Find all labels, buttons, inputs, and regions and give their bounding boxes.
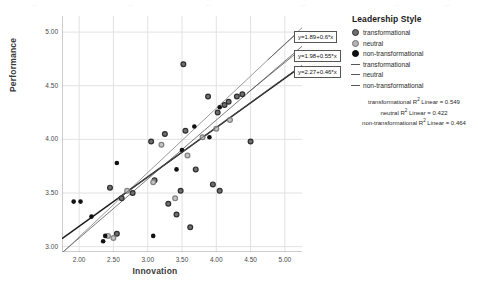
data-point-transformational (210, 182, 215, 187)
data-point-transformational (130, 191, 135, 196)
legend: Leadership Style transformationalneutral… (352, 14, 476, 91)
data-point-non-transformational (207, 135, 212, 140)
data-point-transformational (166, 201, 171, 206)
x-tick-label: 3.50 (167, 256, 197, 263)
y-tick-label: 3.50 (32, 189, 58, 196)
legend-line-item-neutral[interactable]: neutral (352, 70, 476, 80)
legend-line-label: non-transformational (363, 81, 423, 90)
ghost-text-fragment: ·· (394, 1, 400, 10)
r-squared-notes: transformational R2 Linear = 0.549neutra… (352, 96, 476, 128)
legend-line-icon (352, 61, 359, 68)
r-squared-note: neutral R2 Linear = 0.422 (352, 107, 476, 118)
legend-marker-icon (352, 29, 359, 36)
data-point-neutral (125, 188, 130, 193)
data-point-neutral (173, 196, 178, 201)
legend-item-non-transformational[interactable]: non-transformational (352, 49, 476, 59)
data-point-non-transformational (89, 214, 94, 219)
data-point-non-transformational (103, 234, 108, 239)
data-point-transformational (217, 188, 222, 193)
legend-item-label: transformational (363, 28, 410, 37)
data-point-non-transformational (217, 105, 222, 110)
r-squared-note: non-transformational R2 Linear = 0.464 (352, 117, 476, 128)
y-tick-label: 4.00 (32, 135, 58, 142)
data-point-transformational (240, 92, 245, 97)
x-tick-label: 2.00 (64, 256, 94, 263)
data-point-transformational (149, 139, 154, 144)
legend-line-item-non-transformational[interactable]: non-transformational (352, 81, 476, 91)
equation-callout-transformational[interactable]: y=1.89+0.6*x (294, 31, 337, 43)
x-axis-label: Innovation (0, 266, 310, 276)
legend-marker-group: transformationalneutralnon-transformatio… (352, 28, 476, 59)
y-tick-label: 4.50 (32, 82, 58, 89)
scatter-plot-figure: ············ Performance Innovation 3.00… (0, 0, 478, 285)
data-point-non-transformational (115, 161, 120, 166)
plot-area (62, 16, 302, 252)
data-point-transformational (119, 196, 124, 201)
data-point-non-transformational (151, 234, 156, 239)
data-point-neutral (200, 135, 205, 140)
data-point-non-transformational (174, 167, 179, 172)
data-point-transformational (178, 188, 183, 193)
ghost-text-fragment: ·· (444, 1, 450, 10)
data-point-non-transformational (101, 239, 106, 244)
x-tick-label: 2.50 (98, 256, 128, 263)
cropped-header-text: ············ (0, 0, 478, 14)
ghost-text-fragment: ·· (300, 1, 306, 10)
ghost-text-fragment: ·· (32, 1, 38, 10)
data-point-transformational (206, 94, 211, 99)
data-point-neutral (151, 180, 156, 185)
equation-callout-non-transformational[interactable]: y=2.27+0.46*x (294, 66, 341, 78)
legend-item-label: non-transformational (363, 49, 423, 58)
data-point-transformational (108, 185, 113, 190)
legend-marker-icon (352, 50, 359, 57)
x-tick-label: 4.00 (201, 256, 231, 263)
data-point-transformational (248, 139, 253, 144)
data-point-neutral (228, 118, 233, 123)
legend-title: Leadership Style (352, 14, 476, 24)
data-point-transformational (162, 132, 167, 137)
legend-line-icon (352, 71, 359, 78)
legend-marker-icon (352, 40, 359, 47)
data-point-non-transformational (71, 199, 76, 204)
legend-line-label: transformational (363, 60, 410, 69)
data-point-non-transformational (78, 199, 83, 204)
legend-line-item-transformational[interactable]: transformational (352, 60, 476, 70)
y-tick-label: 5.00 (32, 28, 58, 35)
data-point-non-transformational (180, 148, 185, 153)
y-axis-label: Performance (8, 38, 18, 92)
x-tick-label: 4.50 (236, 256, 266, 263)
data-point-neutral (111, 236, 116, 241)
data-point-neutral (214, 126, 219, 131)
data-point-transformational (174, 212, 179, 217)
x-tick-label: 3.00 (133, 256, 163, 263)
data-point-transformational (183, 128, 188, 133)
legend-item-label: neutral (363, 39, 383, 48)
data-point-transformational (215, 110, 220, 115)
y-tick-label: 3.00 (32, 243, 58, 250)
legend-line-group: transformationalneutralnon-transformatio… (352, 60, 476, 91)
data-point-non-transformational (192, 124, 197, 129)
data-point-transformational (226, 99, 231, 104)
legend-line-icon (352, 82, 359, 89)
legend-item-transformational[interactable]: transformational (352, 28, 476, 38)
data-point-neutral (159, 142, 164, 147)
ghost-text-fragment: ·· (128, 1, 134, 10)
data-point-transformational (193, 167, 198, 172)
plot-canvas (62, 16, 302, 252)
ghost-text-fragment: ·· (206, 1, 212, 10)
r-squared-note: transformational R2 Linear = 0.549 (352, 96, 476, 107)
data-point-transformational (114, 231, 119, 236)
x-tick-label: 5.00 (270, 256, 300, 263)
legend-item-neutral[interactable]: neutral (352, 39, 476, 49)
data-point-transformational (181, 62, 186, 67)
data-point-transformational (234, 94, 239, 99)
data-point-transformational (188, 225, 193, 230)
data-point-neutral (185, 153, 190, 158)
equation-callout-neutral[interactable]: y=1.98+0.55*x (294, 50, 341, 62)
legend-line-label: neutral (363, 70, 383, 79)
